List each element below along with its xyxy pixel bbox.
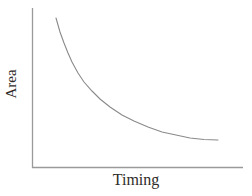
chart-canvas: Area Timing (0, 0, 252, 196)
tradeoff-curve (56, 18, 218, 140)
x-axis-label: Timing (113, 171, 160, 189)
y-axis-label: Area (3, 69, 19, 98)
area-timing-tradeoff-chart: Area Timing (0, 0, 252, 196)
